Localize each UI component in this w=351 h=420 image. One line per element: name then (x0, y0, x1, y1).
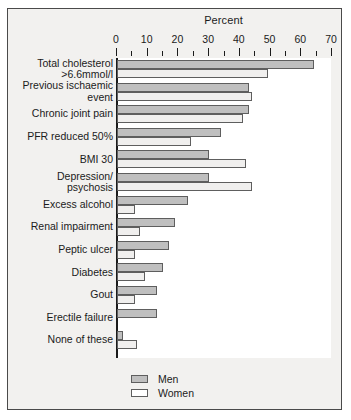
bar-men (117, 150, 209, 159)
x-axis-minor-tick (193, 51, 194, 56)
x-axis-tick-label: 20 (172, 33, 184, 45)
category-label: Depression/ psychosis (57, 171, 113, 194)
legend-item: Women (131, 387, 194, 399)
x-axis-tick (300, 48, 301, 56)
legend-label: Men (158, 373, 178, 385)
chart-title: Percent (116, 14, 331, 26)
x-axis-tick-label: 0 (113, 33, 119, 45)
bar-women (117, 295, 135, 304)
bar-men (117, 60, 314, 69)
x-axis-minor-tick (162, 51, 163, 56)
bar-men (117, 331, 123, 340)
bar-men (117, 196, 188, 205)
category-label: Gout (90, 289, 113, 301)
bar-men (117, 105, 249, 114)
bar-women (117, 205, 135, 214)
category-label: None of these (48, 334, 113, 346)
x-axis-tick (177, 48, 178, 56)
bar-women (117, 92, 252, 101)
bar-women (117, 159, 246, 168)
chart-figure: Percent 010203040506070 Total cholestero… (0, 0, 351, 420)
bar-men (117, 241, 169, 250)
bar-women (117, 227, 140, 236)
category-label: Previous ischaemic event (23, 80, 113, 103)
bar-men (117, 83, 249, 92)
bar-women (117, 69, 268, 78)
bar-men (117, 173, 209, 182)
x-axis-tick (239, 48, 240, 56)
x-axis-tick-label: 30 (202, 33, 214, 45)
legend-swatch-women (131, 389, 148, 397)
x-axis-minor-tick (131, 51, 132, 56)
x-axis-tick-label: 40 (233, 33, 245, 45)
category-label: Diabetes (72, 267, 113, 279)
category-label: Erectile failure (46, 312, 113, 324)
bar-men (117, 309, 157, 318)
bar-men (117, 128, 221, 137)
chart-legend: MenWomen (131, 373, 194, 401)
x-axis-tick-label: 50 (264, 33, 276, 45)
x-axis-tick-label: 60 (294, 33, 306, 45)
x-axis-minor-tick (224, 51, 225, 56)
x-axis-tick-label: 70 (325, 33, 337, 45)
category-label: Peptic ulcer (58, 244, 113, 256)
bar-women (117, 340, 137, 349)
x-axis-tick-label: 10 (141, 33, 153, 45)
bar-women (117, 114, 243, 123)
x-axis-tick (331, 48, 332, 56)
bar-women (117, 272, 145, 281)
x-axis-minor-tick (285, 51, 286, 56)
category-label: Renal impairment (31, 221, 113, 233)
x-axis-minor-tick (316, 51, 317, 56)
x-axis-tick (116, 48, 117, 56)
bar-women (117, 182, 252, 191)
bar-women (117, 137, 191, 146)
bar-men (117, 263, 163, 272)
bar-men (117, 218, 175, 227)
legend-swatch-men (131, 375, 148, 383)
x-axis-tick (208, 48, 209, 56)
bar-women (117, 250, 135, 259)
category-label: PFR reduced 50% (27, 131, 113, 143)
category-label: Excess alcohol (43, 199, 113, 211)
legend-label: Women (158, 387, 194, 399)
category-label: Total cholesterol >6.6mmol/l (37, 58, 113, 81)
bar-men (117, 286, 157, 295)
x-axis-tick (147, 48, 148, 56)
x-axis-tick (270, 48, 271, 56)
legend-item: Men (131, 373, 194, 385)
category-label: Chronic joint pain (32, 108, 113, 120)
x-axis-minor-tick (254, 51, 255, 56)
category-label: BMI 30 (80, 154, 113, 166)
